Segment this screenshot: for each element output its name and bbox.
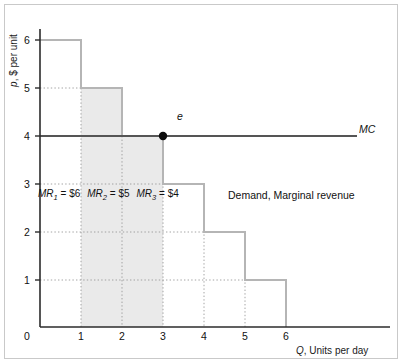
chart-canvas xyxy=(0,0,402,363)
mr1-value: = $6 xyxy=(61,188,81,199)
mr3-value: = $4 xyxy=(159,188,179,199)
demand-curve-label: Demand, Marginal revenue xyxy=(228,189,355,201)
y-axis-title-unit: , $ per unit xyxy=(8,34,19,81)
mr1-subscript: 1 xyxy=(54,193,58,202)
x-tick-1: 1 xyxy=(74,330,88,342)
y-axis-title: p, $ per unit xyxy=(8,21,19,101)
mr3-symbol: MR xyxy=(137,188,153,199)
y-tick-6: 6 xyxy=(20,34,34,46)
x-tick-3: 3 xyxy=(156,330,170,342)
x-tick-2: 2 xyxy=(115,330,129,342)
mr3-subscript: 3 xyxy=(152,193,156,202)
x-tick-4: 4 xyxy=(197,330,211,342)
mr2-symbol: MR xyxy=(87,188,103,199)
x-tick-6: 6 xyxy=(279,330,293,342)
mr2-subscript: 2 xyxy=(103,193,107,202)
x-tick-5: 5 xyxy=(238,330,252,342)
y-tick-2: 2 xyxy=(20,226,34,238)
equilibrium-point-label: e xyxy=(177,110,183,122)
mr2-value: = $5 xyxy=(110,188,130,199)
y-tick-4: 4 xyxy=(20,130,34,142)
y-tick-5: 5 xyxy=(20,82,34,94)
marginal-revenue-annotations: MR1 = $6MR2 = $5MR3 = $4 xyxy=(38,188,179,202)
economics-figure: 6 5 4 3 2 1 0 1 2 3 4 5 6 p, $ per unit … xyxy=(0,0,402,363)
x-axis-title-var: Q xyxy=(296,345,304,356)
y-axis-title-var: p xyxy=(8,81,19,87)
y-tick-1: 1 xyxy=(20,274,34,286)
x-axis-title-unit: , Units per day xyxy=(304,345,368,356)
equilibrium-point-e xyxy=(159,132,167,140)
x-axis-title: Q, Units per day xyxy=(296,345,368,356)
mc-curve-label: MC xyxy=(359,123,375,135)
y-tick-3: 3 xyxy=(20,178,34,190)
mr1-symbol: MR xyxy=(38,188,54,199)
y-tick-0: 0 xyxy=(20,330,34,342)
